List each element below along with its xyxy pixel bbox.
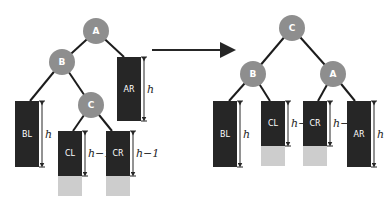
- subtree-label: BL: [220, 130, 230, 139]
- node-label: C: [88, 100, 95, 110]
- node-a: A: [320, 61, 346, 87]
- node-c: C: [279, 15, 305, 41]
- node-b: B: [240, 61, 266, 87]
- node-label: C: [289, 23, 296, 33]
- subtree-label: BL: [22, 130, 32, 139]
- subtree-ar: ARh: [347, 101, 384, 167]
- avl-rotation-diagram: ARhBLhCLh−1CRh−1ABC BLhCLh−1CRh−1ARhCBA: [0, 0, 391, 205]
- subtree-extra-level: [261, 146, 285, 166]
- height-label: h: [147, 83, 154, 96]
- before-edges: [30, 31, 124, 131]
- subtree-cl: CLh−1: [58, 131, 111, 196]
- node-label: B: [250, 69, 257, 79]
- node-label: A: [330, 69, 337, 79]
- height-label: h: [377, 128, 384, 141]
- subtree-label: AR: [123, 85, 134, 94]
- subtree-label: CL: [65, 149, 76, 158]
- node-b: B: [49, 49, 75, 75]
- before-tree: ARhBLhCLh−1CRh−1ABC: [15, 18, 159, 196]
- node-a: A: [83, 18, 109, 44]
- height-label: h: [243, 128, 250, 141]
- subtree-extra-level: [303, 146, 327, 166]
- subtree-cr: CRh−1: [106, 131, 159, 196]
- subtree-label: CR: [309, 119, 321, 128]
- subtree-bl: BLh: [15, 101, 52, 167]
- subtree-extra-level: [106, 176, 130, 196]
- subtree-extra-level: [58, 176, 82, 196]
- subtree-label: AR: [353, 130, 364, 139]
- node-label: A: [93, 26, 100, 36]
- node-c: C: [78, 92, 104, 118]
- subtree-bl: BLh: [213, 101, 250, 167]
- height-label: h: [45, 128, 52, 141]
- node-label: B: [59, 57, 66, 67]
- height-label: h−1: [136, 147, 159, 160]
- subtree-label: CR: [112, 149, 124, 158]
- subtree-ar: ARh: [117, 57, 154, 121]
- subtree-label: CL: [268, 119, 279, 128]
